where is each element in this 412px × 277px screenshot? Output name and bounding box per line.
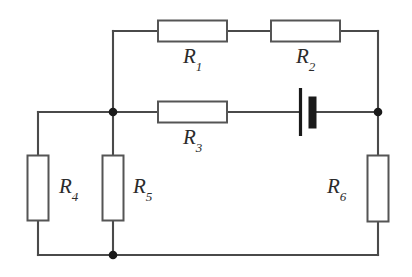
resistor-r6-body [368, 156, 389, 222]
left-rail-branch [28, 112, 49, 255]
junction-dot-left-mid [109, 108, 118, 117]
label-r2-subscript: 2 [309, 59, 316, 74]
resistor-r4-body [28, 156, 49, 221]
resistor-r1-body [158, 21, 227, 42]
circuit-schematic-svg [0, 0, 412, 277]
label-r3-name: R [183, 125, 196, 149]
right-rail-branch [368, 112, 389, 255]
label-r2-name: R [296, 44, 309, 68]
label-r5: R5 [133, 176, 152, 200]
label-r2: R2 [296, 46, 315, 70]
middle-vertical-branch [103, 112, 124, 255]
junction-dot-right-mid [374, 108, 383, 117]
junction-dot-bottom-mid [109, 251, 118, 260]
label-r1-name: R [183, 44, 196, 68]
battery-short-plate [309, 97, 316, 128]
label-r4: R4 [59, 176, 78, 200]
label-r6: R6 [327, 176, 346, 200]
circuit-diagram: R1 R2 R3 R4 R5 R6 [0, 0, 412, 277]
label-r3: R3 [183, 127, 202, 151]
top-branch [113, 21, 378, 113]
label-r6-name: R [327, 174, 340, 198]
label-r1-subscript: 1 [196, 59, 203, 74]
label-r1: R1 [183, 46, 202, 70]
middle-branch [38, 88, 378, 136]
label-r6-subscript: 6 [340, 189, 347, 204]
label-r5-subscript: 5 [146, 189, 153, 204]
resistor-r3-body [158, 102, 227, 123]
resistor-r2-body [271, 21, 340, 42]
label-r4-subscript: 4 [72, 189, 79, 204]
resistor-r5-body [103, 156, 124, 221]
label-r3-subscript: 3 [196, 140, 203, 155]
label-r4-name: R [59, 174, 72, 198]
label-r5-name: R [133, 174, 146, 198]
